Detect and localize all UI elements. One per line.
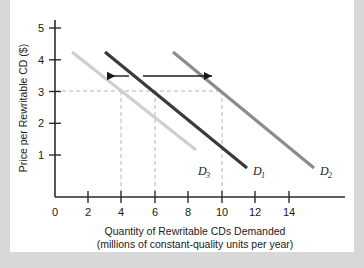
demand-curve-d3 [72, 52, 196, 150]
x-tick-label-0: 0 [52, 206, 58, 218]
x-tick-label-8: 8 [185, 206, 191, 218]
curve-label-d2-subscript: 2 [328, 171, 332, 180]
y-tick-label-3: 3 [38, 86, 44, 98]
reference-lines [55, 91, 222, 197]
x-axis-tick-labels: 0 2 4 6 8 10 12 14 [52, 206, 295, 218]
y-axis-tick-labels: 5 4 3 2 1 [38, 22, 44, 161]
demand-curve-chart: D 3 D 1 D 2 5 4 3 [0, 0, 364, 268]
curve-label-d3-subscript: 3 [205, 171, 210, 180]
x-tick-label-4: 4 [118, 206, 124, 218]
figure-frame: D 3 D 1 D 2 5 4 3 [0, 0, 364, 268]
demand-curve-d1 [105, 52, 247, 168]
demand-curve-d2 [173, 52, 314, 168]
x-tick-label-2: 2 [85, 206, 91, 218]
curve-label-d1-subscript: 1 [261, 171, 265, 180]
x-tick-label-12: 12 [249, 206, 261, 218]
y-tick-label-5: 5 [38, 22, 44, 34]
x-tick-label-14: 14 [283, 206, 295, 218]
y-tick-label-2: 2 [38, 117, 44, 129]
x-tick-label-10: 10 [216, 206, 228, 218]
x-axis-title-line1: Quantity of Rewritable CDs Demanded [105, 225, 286, 237]
x-tick-label-6: 6 [152, 206, 158, 218]
y-tick-label-1: 1 [38, 149, 44, 161]
y-axis-title: Price per Rewritable CD ($) [17, 44, 29, 172]
x-axis-title-line2: (millions of constant-quality units per … [97, 238, 294, 250]
y-tick-label-4: 4 [38, 54, 44, 66]
demand-curves [72, 52, 314, 168]
